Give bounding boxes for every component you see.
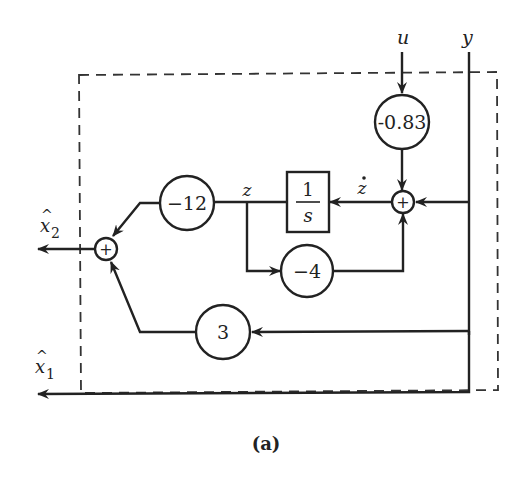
gain-minus4-value: −4 xyxy=(293,260,321,282)
input-y-label: y xyxy=(461,26,473,48)
zdot-label: z xyxy=(357,178,368,198)
input-u-label: u xyxy=(397,26,409,48)
gain3-to-sum-wire xyxy=(111,262,196,332)
zdot-dot-accent xyxy=(362,176,366,180)
block-diagram: u y -0.83 + z 1 s z −4 −12 + 3 x ^ 2 x ^… xyxy=(0,0,531,481)
y-to-gain3-wire xyxy=(252,331,469,332)
x1-subscript: 1 xyxy=(46,366,55,382)
x2-hat-accent: ^ xyxy=(41,207,53,223)
gain-3-value: 3 xyxy=(217,321,229,343)
gain12-to-sum-wire xyxy=(113,203,160,236)
summer-x2-symbol: + xyxy=(99,240,112,259)
integrator-numerator: 1 xyxy=(302,179,313,200)
summer-zdot-symbol: + xyxy=(396,193,409,212)
z-label: z xyxy=(242,180,253,200)
x1-hat-accent: ^ xyxy=(36,348,48,364)
figure-caption: (a) xyxy=(252,433,281,454)
gain4-to-sum-wire xyxy=(333,214,403,271)
z-to-gain4-wire xyxy=(247,202,280,271)
gain-u-value: -0.83 xyxy=(378,111,427,133)
x1-output-wire xyxy=(38,331,469,394)
gain-minus12-value: −12 xyxy=(167,192,207,214)
integrator-denominator: s xyxy=(303,205,312,226)
x2-subscript: 2 xyxy=(51,225,60,241)
